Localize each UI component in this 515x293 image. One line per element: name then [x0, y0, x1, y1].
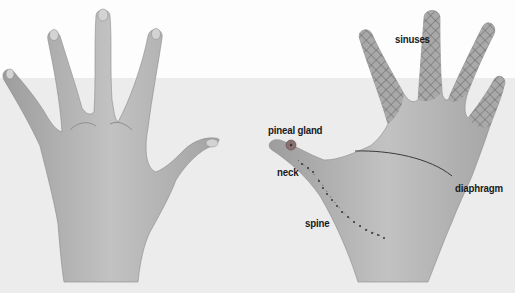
label-neck: neck: [277, 166, 298, 178]
hands-illustration: [0, 0, 515, 293]
label-diaphragm: diaphragm: [455, 182, 503, 194]
label-pineal-gland: pineal gland: [268, 124, 322, 136]
back-of-hand: [3, 9, 219, 282]
label-spine: spine: [305, 217, 329, 229]
palm-of-hand: [269, 11, 505, 283]
label-sinuses: sinuses: [395, 33, 430, 45]
